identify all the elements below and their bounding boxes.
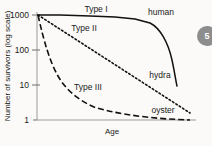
y-tick-label-10: 10 <box>20 80 30 90</box>
annotation-type-ii: Type II <box>71 23 97 33</box>
y-tick-label-100: 100 <box>15 45 29 55</box>
chart-svg: 1000 100 10 1 Number of survivors (log s… <box>0 0 212 146</box>
annotation-type-i: Type I <box>84 4 107 14</box>
page-number-badge: 5 <box>197 26 212 46</box>
annotation-human: human <box>148 7 174 17</box>
x-axis-title: Age <box>105 127 120 136</box>
caption-sliver <box>2 139 142 145</box>
annotation-type-iii: Type III <box>74 82 102 92</box>
survivorship-curve-figure: 1000 100 10 1 Number of survivors (log s… <box>0 0 212 146</box>
y-axis-title: Number of survivors (log scale) <box>3 10 12 121</box>
annotation-hydra: hydra <box>149 70 171 80</box>
page-number-badge-label: 5 <box>204 31 209 41</box>
curve-type-ii <box>38 15 190 113</box>
y-tick-label-1000: 1000 <box>10 10 29 20</box>
annotation-oyster: oyster <box>151 105 174 115</box>
y-tick-label-1: 1 <box>24 115 29 125</box>
